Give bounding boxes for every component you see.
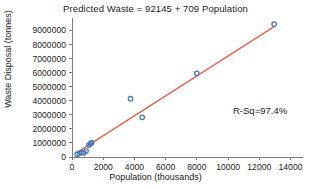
y-tick-label: 5000000 — [33, 82, 67, 92]
y-tick-label: 9000000 — [33, 25, 67, 35]
r-squared-annotation: R-Sq=97.4% — [233, 105, 287, 116]
x-tick-label: 0 — [70, 162, 75, 172]
regression-line — [77, 27, 274, 153]
plot-canvas: 0100000020000003000000400000050000006000… — [0, 0, 311, 189]
y-tick-label: 3000000 — [33, 110, 67, 120]
x-tick-label: 2000 — [94, 162, 113, 172]
x-axis-ticks: 02000400060008000100001200014000 — [70, 157, 303, 172]
y-tick-label: 1000000 — [33, 138, 67, 148]
y-tick-label: 0 — [61, 152, 66, 162]
data-point — [195, 71, 199, 75]
scatter-plot-figure: Predicted Waste = 92145 + 709 Population… — [0, 0, 311, 189]
y-tick-label: 2000000 — [33, 124, 67, 134]
x-tick-label: 10000 — [216, 162, 240, 172]
x-tick-label: 4000 — [125, 162, 144, 172]
x-tick-label: 8000 — [187, 162, 206, 172]
x-tick-label: 6000 — [156, 162, 175, 172]
data-point — [128, 96, 132, 100]
y-tick-label: 7000000 — [33, 54, 67, 64]
data-point — [140, 115, 144, 119]
y-tick-label: 6000000 — [33, 68, 67, 78]
y-tick-label: 4000000 — [33, 96, 67, 106]
x-tick-label: 12000 — [247, 162, 271, 172]
x-tick-label: 14000 — [279, 162, 303, 172]
y-tick-label: 8000000 — [33, 40, 67, 50]
y-axis-ticks: 0100000020000003000000400000050000006000… — [33, 25, 72, 162]
data-point — [272, 22, 276, 26]
